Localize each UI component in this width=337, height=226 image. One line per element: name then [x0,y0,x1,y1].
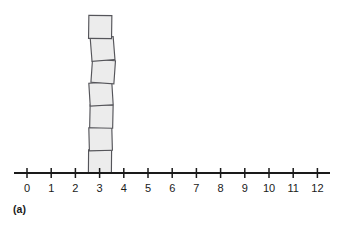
axis-tick-label-1: 1 [48,182,54,194]
axis-tick-label-4: 4 [121,182,127,194]
axis-tick-label-10: 10 [263,182,275,194]
axis-tick-label-0: 0 [24,182,30,194]
stack-block-3 [90,105,113,128]
stack-block-2 [89,127,113,151]
axis-tick-label-6: 6 [169,182,175,194]
axis-tick-label-group: 0123456789101112 [24,182,324,194]
axis-tick-label-5: 5 [145,182,151,194]
block-stack [88,15,115,173]
stack-block-7 [89,15,112,38]
stack-block-5 [91,59,116,84]
figure-panel-a: 0123456789101112 (a) [0,0,337,226]
stack-block-6 [90,37,115,62]
axis-tick-label-8: 8 [218,182,224,194]
axis-tick-label-2: 2 [72,182,78,194]
axis-tick-label-3: 3 [97,182,103,194]
number-line-plot: 0123456789101112 [0,0,337,226]
axis-tick-label-12: 12 [311,182,323,194]
stack-block-4 [89,82,113,106]
axis-tick-label-9: 9 [242,182,248,194]
panel-label: (a) [13,203,26,215]
axis-tick-label-11: 11 [287,182,298,194]
axis-tick-label-7: 7 [193,182,199,194]
